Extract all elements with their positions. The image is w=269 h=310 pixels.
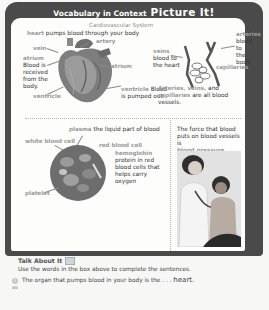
atrium-definition: Blood is received from the body. (23, 62, 48, 90)
label-atrium-right: atrium (111, 63, 132, 69)
label-veins: veins (153, 48, 170, 54)
vessels-summary: Arteries, veins, and capillaries are all… (158, 85, 240, 106)
label-capillaries: capillaries (216, 64, 248, 70)
talk-about-it-icon (65, 257, 75, 265)
plasma-term: plasma (69, 126, 92, 132)
banner-big-title: Picture It! (151, 6, 215, 18)
heart-term: heart (27, 30, 44, 36)
talk-about-it-heading: Talk About It (18, 257, 75, 265)
blood-cells-illustration-icon (49, 144, 107, 202)
hemoglobin-definition: protein in red blood cells that helps ca… (115, 157, 160, 185)
label-ventricle-right: ventricle (121, 86, 149, 92)
label-vein: vein (33, 45, 46, 51)
label-atrium-left: atrium (23, 55, 44, 61)
label-artery: artery (96, 38, 115, 44)
banner-small-title: Vocabulary in Context (53, 9, 146, 18)
vocabulary-frame: Vocabulary in ContextPicture It! Cardiov… (5, 2, 263, 256)
question-answer: heart. (173, 276, 194, 284)
veins-definition: blood to the heart (153, 55, 180, 69)
vocabulary-panel: Cardiovascular System heart pumps blood … (11, 18, 245, 251)
hemoglobin-term: hemoglobin (115, 150, 152, 156)
heart-def: pumps blood through your body (46, 30, 139, 36)
question-1: 1The organ that pumps blood in your body… (12, 276, 194, 284)
vertical-divider (170, 118, 171, 251)
horizontal-divider (25, 118, 241, 119)
heart-definition: heart pumps blood through your body (27, 30, 139, 37)
label-arteries: arteries (236, 31, 261, 37)
question-2-number-partial (12, 286, 18, 289)
arteries-definition: blood to the body (236, 38, 252, 66)
question-number: 1 (12, 278, 18, 284)
heart-illustration-icon (53, 38, 121, 108)
talk-instructions: Use the words in the box above to comple… (18, 266, 191, 272)
plasma-definition: plasma the liquid part of blood (69, 126, 160, 133)
blood-pressure-definition: The force that blood puts on blood vesse… (177, 126, 243, 154)
question-text: The organ that pumps blood in your body … (22, 277, 172, 283)
banner: Vocabulary in ContextPicture It! (5, 4, 263, 18)
section-subtitle: Cardiovascular System (89, 22, 153, 28)
doctor-patient-photo-icon (177, 151, 241, 247)
